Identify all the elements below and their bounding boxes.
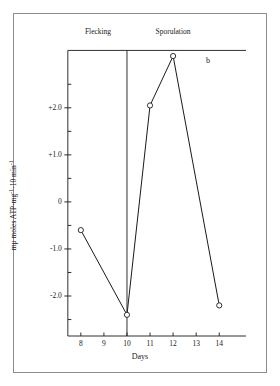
x-tick-label: 14 <box>209 340 229 348</box>
y-tick-label: -1.0 <box>32 245 62 253</box>
axes-group <box>68 50 246 336</box>
data-point-marker <box>147 103 152 108</box>
region-label-flecking: Flecking <box>62 28 134 36</box>
y-tick-label: +2.0 <box>32 104 62 112</box>
data-point-marker <box>171 53 176 58</box>
data-point-marker <box>124 312 129 317</box>
data-series <box>78 53 222 317</box>
y-tick-label: -2.0 <box>32 292 62 300</box>
data-point-marker <box>78 228 83 233</box>
x-tick-label: 8 <box>71 340 91 348</box>
y-axis-title: mμ moles ATP·mg-1·10 min-1 <box>8 130 19 280</box>
x-tick-label: 10 <box>117 340 137 348</box>
chart-canvas <box>0 0 280 386</box>
x-tick-label: 12 <box>163 340 183 348</box>
region-label-sporulation: Sporulation <box>128 28 218 36</box>
panel-label: b <box>206 57 210 65</box>
x-axis-title: Days <box>85 352 195 361</box>
y-tick-label: 0 <box>32 198 62 206</box>
tick-marks <box>64 84 219 336</box>
data-point-marker <box>217 303 222 308</box>
y-tick-label: +1.0 <box>32 151 62 159</box>
x-tick-label: 9 <box>94 340 114 348</box>
x-tick-label: 13 <box>186 340 206 348</box>
x-tick-label: 11 <box>140 340 160 348</box>
